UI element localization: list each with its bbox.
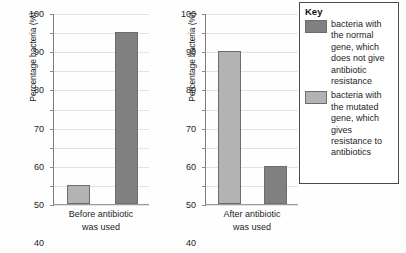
y-axis-tick: 30 — [202, 148, 206, 149]
y-axis-tick: 70 — [50, 71, 54, 72]
bar-before-mutated — [67, 185, 90, 204]
y-axis-tick: 100 — [202, 14, 206, 15]
legend-entry-0: bacteria with the normal gene, which doe… — [305, 19, 394, 87]
y-axis-tick-label: 70 — [186, 124, 196, 134]
y-axis-tick-label: 100 — [181, 9, 196, 19]
gridline — [54, 14, 149, 15]
gridline — [206, 205, 298, 206]
x-axis-label-after-line1: After antibiotic — [192, 208, 312, 221]
y-axis-tick-label: 60 — [34, 162, 44, 172]
x-axis-label-before-line1: Before antibiotic — [40, 208, 162, 221]
y-axis-tick: 60 — [50, 90, 54, 91]
y-axis-tick: 0 — [202, 205, 206, 206]
x-axis-label-before-line2: was used — [40, 221, 162, 234]
y-axis-tick: 50 — [202, 110, 206, 111]
x-axis-label-after: After antibiotic was used — [192, 208, 312, 233]
y-axis-tick: 0 — [50, 205, 54, 206]
y-axis-tick-label: 40 — [186, 238, 196, 248]
bar-after-mutated — [218, 51, 241, 204]
y-axis-tick-label: 60 — [186, 162, 196, 172]
legend-label-1: bacteria with the mutated gene, which gi… — [331, 90, 394, 158]
y-axis-tick-label: 90 — [186, 47, 196, 57]
y-axis-tick: 100 — [50, 14, 54, 15]
y-axis-tick-label: 40 — [34, 238, 44, 248]
y-axis-tick: 30 — [50, 148, 54, 149]
y-axis-tick: 90 — [50, 33, 54, 34]
legend-swatch-1 — [305, 91, 327, 104]
legend-entries: bacteria with the normal gene, which doe… — [305, 19, 394, 159]
y-axis-tick: 40 — [202, 129, 206, 130]
legend-key-box: Key bacteria with the normal gene, which… — [299, 2, 399, 184]
y-axis-tick: 10 — [202, 186, 206, 187]
y-axis-tick-label: 70 — [34, 124, 44, 134]
plot-area-before: 1009080706050403020100 — [53, 14, 149, 205]
gridline — [206, 33, 298, 34]
y-axis-tick: 80 — [202, 52, 206, 53]
y-axis-tick: 80 — [50, 52, 54, 53]
bar-before-normal — [115, 32, 138, 204]
legend-title: Key — [305, 6, 394, 17]
y-axis-tick: 60 — [202, 90, 206, 91]
y-axis-tick-label: 100 — [29, 9, 44, 19]
y-axis-tick-label: 80 — [186, 85, 196, 95]
x-axis-label-after-line2: was used — [192, 221, 312, 234]
y-axis-tick: 40 — [50, 129, 54, 130]
chart-panel-after: Percentage bacteria (%) 1009080706050403… — [158, 0, 298, 253]
legend-swatch-0 — [305, 20, 327, 33]
x-axis-label-before: Before antibiotic was used — [40, 208, 162, 233]
y-axis-tick: 70 — [202, 71, 206, 72]
bar-chart-figure: Percentage bacteria (%) 1009080706050403… — [0, 0, 406, 253]
y-axis-tick: 20 — [202, 167, 206, 168]
chart-panel-before: Percentage bacteria (%) 1009080706050403… — [0, 0, 160, 253]
legend-entry-1: bacteria with the mutated gene, which gi… — [305, 90, 394, 158]
y-axis-tick-label: 90 — [34, 47, 44, 57]
gridline — [54, 205, 149, 206]
gridline — [206, 14, 298, 15]
y-axis-tick-label: 80 — [34, 85, 44, 95]
plot-area-after: 1009080706050403020100 — [205, 14, 298, 205]
y-axis-tick: 90 — [202, 33, 206, 34]
legend-label-0: bacteria with the normal gene, which doe… — [331, 19, 394, 87]
y-axis-tick: 10 — [50, 186, 54, 187]
bar-after-normal — [264, 166, 287, 204]
y-axis-tick: 50 — [50, 110, 54, 111]
y-axis-tick: 20 — [50, 167, 54, 168]
